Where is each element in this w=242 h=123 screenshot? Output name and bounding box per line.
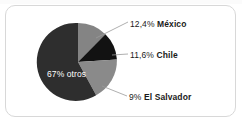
- callout-percent-chile: 11,6%: [130, 50, 154, 60]
- leader-line-mexico: [96, 22, 128, 38]
- callout-name-el-salvador: El Salvador: [144, 92, 191, 102]
- leader-line-el-salvador: [102, 86, 127, 96]
- pie-chart-card: 12,4% México 11,6% Chile 9% El Salvador …: [0, 0, 242, 123]
- callout-label-chile: 11,6% Chile: [130, 51, 178, 60]
- callout-name-mexico: México: [157, 19, 186, 29]
- callout-label-mexico: 12,4% México: [130, 20, 187, 29]
- pie-chart-graphic: [0, 0, 242, 123]
- inside-label-otros: 67% otros: [47, 69, 86, 79]
- callout-percent-mexico: 12,4%: [130, 19, 155, 29]
- callout-label-el-salvador: 9% El Salvador: [129, 93, 191, 102]
- callout-name-chile: Chile: [156, 50, 177, 60]
- callout-percent-el-salvador: 9%: [129, 92, 142, 102]
